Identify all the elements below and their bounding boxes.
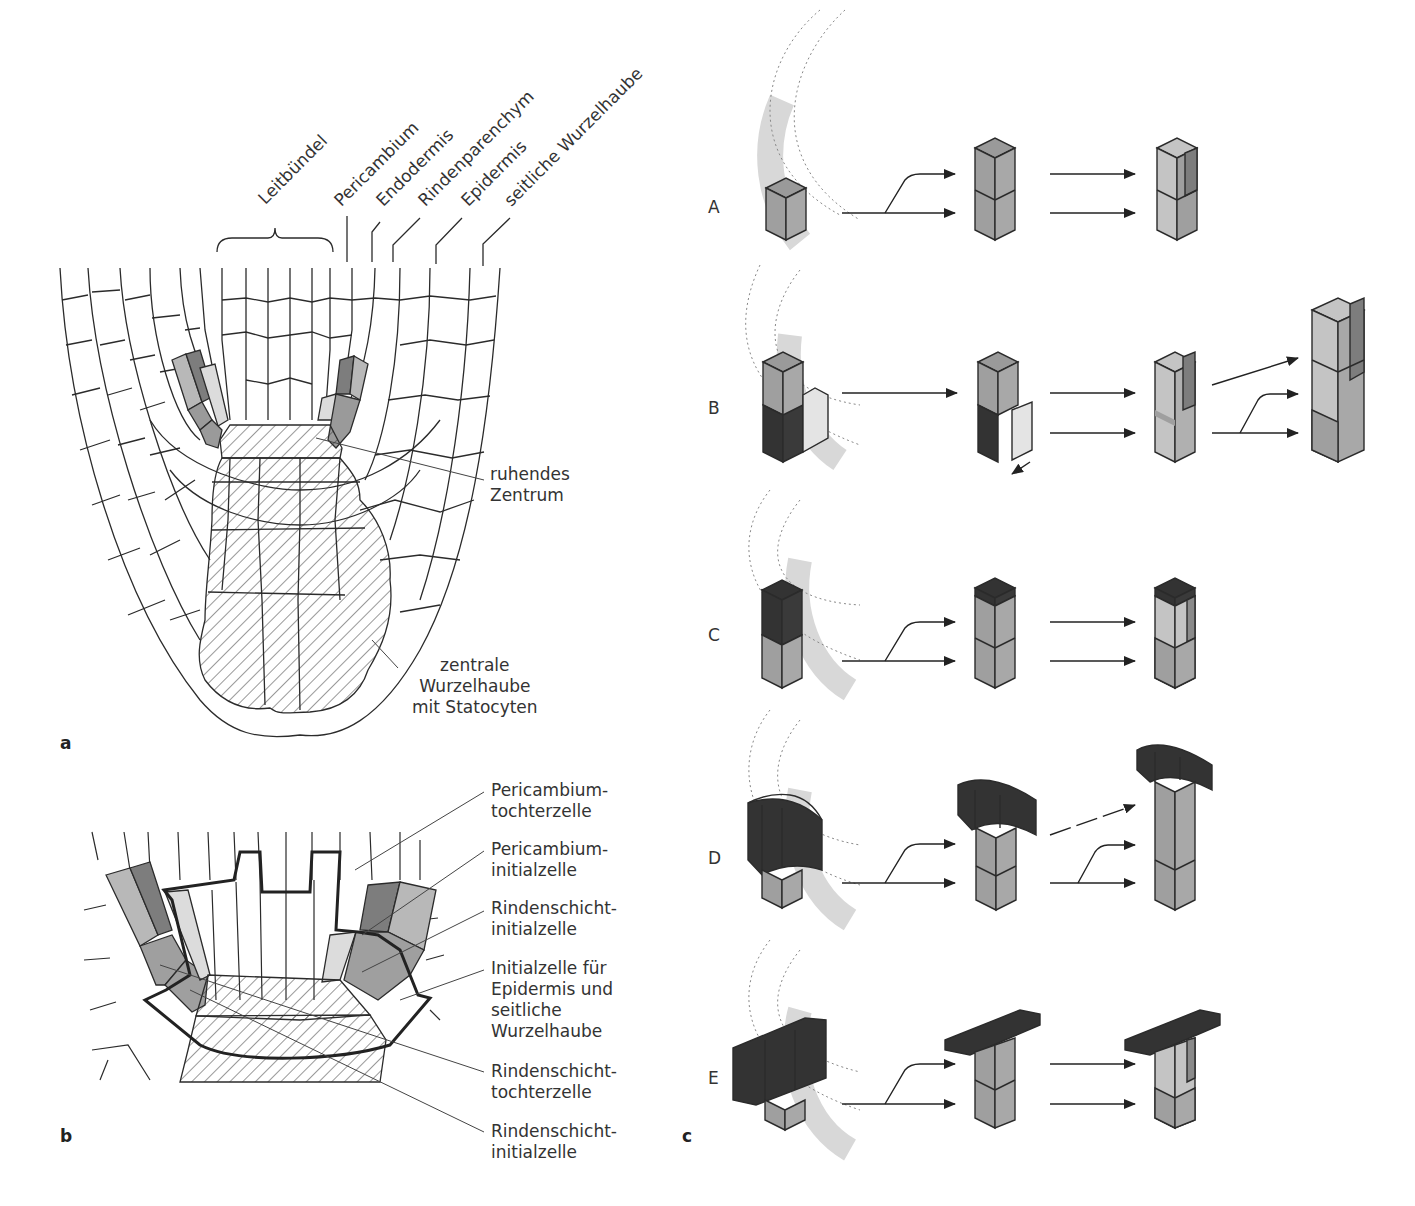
- row-C-graphic: [749, 490, 1195, 690]
- row-D-graphic: [748, 710, 1212, 920]
- panel-b-colored-cells: [106, 862, 436, 1082]
- leitbuendel-brace: [217, 228, 333, 252]
- legend-initialzelle-epidermis: Initialzelle fürEpidermis und seitlicheW…: [491, 958, 613, 1042]
- panel-letter-b: b: [60, 1126, 72, 1146]
- b-hatched-qc: [196, 975, 370, 1020]
- row-letter-C: C: [708, 625, 720, 645]
- row-A-graphic: [766, 10, 1197, 242]
- panel-letter-c: c: [682, 1126, 692, 1146]
- row-letter-D: D: [708, 848, 721, 868]
- central-root-cap: [199, 458, 391, 713]
- row-letter-E: E: [708, 1068, 719, 1088]
- legend-rindenschicht-tochterzelle: Rindenschicht-tochterzelle: [491, 1061, 617, 1103]
- legend-pericambium-tochterzelle: Pericambium-tochterzelle: [491, 780, 608, 822]
- row-letter-A: A: [708, 197, 720, 217]
- label-zentrale-wurzelhaube: zentrale Wurzelhaube mit Statocyten: [412, 655, 538, 718]
- row-letter-B: B: [708, 398, 720, 418]
- panel-letter-a: a: [60, 733, 71, 753]
- root-meristem-diagram: [0, 0, 1415, 1206]
- label-ruhendes-zentrum: ruhendes Zentrum: [490, 464, 570, 506]
- row-B-graphic: [746, 265, 1364, 474]
- legend-pericambium-initialzelle: Pericambium-initialzelle: [491, 839, 608, 881]
- quiescent-center: [220, 425, 342, 458]
- panel-c-schemes: [733, 10, 1364, 1150]
- cell-right-light: [350, 356, 368, 400]
- legend-rindenschicht-initialzelle-1: Rindenschicht-initialzelle: [491, 898, 617, 940]
- legend-rindenschicht-initialzelle-2: Rindenschicht-initialzelle: [491, 1121, 617, 1163]
- row-E-graphic: [733, 940, 1220, 1150]
